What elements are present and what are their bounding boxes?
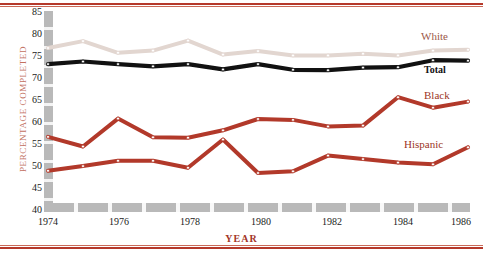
series-label-white: White [421,30,448,42]
series-line-white [48,41,468,56]
series-label-hispanic: Hispanic [404,138,443,150]
data-point-black-1975 [82,145,85,148]
data-point-white-1985 [432,49,435,52]
data-point-hispanic-1986 [467,146,470,149]
data-point-hispanic-1985 [432,163,435,166]
data-point-total-1976 [117,63,120,66]
data-point-total-1975 [82,60,85,63]
data-point-hispanic-1981 [292,170,295,173]
data-point-hispanic-1980 [257,172,260,175]
data-point-black-1984 [397,96,400,99]
data-point-black-1983 [362,124,365,127]
data-point-black-1978 [187,136,190,139]
data-point-white-1986 [467,48,470,51]
data-point-total-1978 [187,63,190,66]
data-point-black-1980 [257,118,260,121]
data-point-white-1979 [222,53,225,56]
data-point-black-1974 [47,135,50,138]
data-point-total-1977 [152,65,155,68]
data-point-total-1981 [292,68,295,71]
data-point-black-1976 [117,117,120,120]
data-point-black-1985 [432,106,435,109]
data-point-hispanic-1975 [82,165,85,168]
data-point-hispanic-1978 [187,166,190,169]
data-point-hispanic-1979 [222,138,225,141]
series-label-black: Black [424,89,450,101]
data-point-white-1977 [152,49,155,52]
data-point-hispanic-1984 [397,161,400,164]
data-point-hispanic-1977 [152,159,155,162]
data-point-total-1982 [327,69,330,72]
chart-figure: PERCENTAGE COMPLETED YEAR 85 80 75 70 65… [0,0,483,253]
data-point-black-1977 [152,136,155,139]
series-label-total: Total [424,64,446,75]
data-point-black-1986 [467,100,470,103]
data-point-white-1983 [362,52,365,55]
data-point-white-1984 [397,54,400,57]
data-point-white-1980 [257,50,260,53]
data-point-white-1982 [327,54,330,57]
data-point-total-1986 [467,59,470,62]
data-point-hispanic-1974 [47,169,50,172]
data-point-hispanic-1982 [327,154,330,157]
data-point-hispanic-1983 [362,158,365,161]
data-point-hispanic-1976 [117,159,120,162]
data-point-total-1985 [432,59,435,62]
data-point-white-1976 [117,51,120,54]
data-point-black-1982 [327,125,330,128]
data-point-black-1979 [222,129,225,132]
data-point-total-1979 [222,68,225,71]
data-point-white-1978 [187,39,190,42]
chart-plot-area [0,0,483,253]
data-point-total-1974 [47,63,50,66]
data-point-total-1984 [397,66,400,69]
data-point-white-1981 [292,54,295,57]
data-point-white-1974 [47,47,50,50]
data-point-total-1983 [362,66,365,69]
data-point-white-1975 [82,40,85,43]
data-point-total-1980 [257,63,260,66]
data-point-black-1981 [292,118,295,121]
